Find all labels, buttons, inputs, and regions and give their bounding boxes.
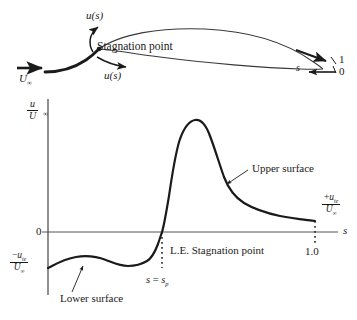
zero-tick-label: 0 bbox=[36, 226, 42, 237]
upper-surface-leader bbox=[227, 170, 248, 184]
lower-surface-leader bbox=[72, 266, 83, 292]
sp-label: s = sp bbox=[146, 275, 169, 288]
le-stagnation-annotation: L.E. Stagnation point bbox=[170, 245, 264, 256]
te-upper-arrow bbox=[296, 50, 326, 61]
te-upper-value: 1 bbox=[339, 54, 345, 65]
stagnation-point-label: Stagnation point bbox=[97, 41, 173, 53]
freestream-label: U∞ bbox=[19, 73, 32, 87]
stagnation-streamline bbox=[45, 49, 99, 72]
lower-surface-label: Lower surface bbox=[60, 293, 123, 304]
plot-y-axis-label-sub: ∞ bbox=[43, 111, 48, 118]
one-tick-label: 1.0 bbox=[305, 246, 319, 257]
figure-root: U∞ u(s) Stagnation point u(s) 1 0 s u U … bbox=[0, 0, 357, 320]
plot-x-axis-label: s bbox=[343, 225, 347, 236]
te-lower-value: 0 bbox=[339, 66, 345, 77]
lower-velocity-label: u(s) bbox=[104, 70, 121, 81]
lower-velocity-arrow bbox=[97, 57, 126, 67]
arc-length-label: s bbox=[296, 63, 300, 73]
te-negative-velocity-label: −ute U∞ bbox=[10, 251, 28, 274]
upper-velocity-label: u(s) bbox=[86, 10, 103, 21]
te-upper-tick bbox=[331, 57, 336, 64]
te-positive-velocity-label: +ute U∞ bbox=[322, 193, 340, 216]
figure-canvas bbox=[0, 0, 357, 320]
plot-y-axis-label: u U bbox=[27, 99, 38, 121]
upper-surface-label: Upper surface bbox=[252, 163, 314, 174]
